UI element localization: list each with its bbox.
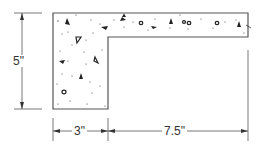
- concrete-l-shape: [53, 13, 248, 109]
- diagram-canvas: 5" 3" 7.5": [0, 0, 263, 152]
- height-label: 5": [11, 55, 26, 67]
- concrete-section-drawing: [0, 0, 263, 152]
- stem-width-label: 3": [72, 125, 87, 137]
- flange-extension-label: 7.5": [162, 125, 187, 137]
